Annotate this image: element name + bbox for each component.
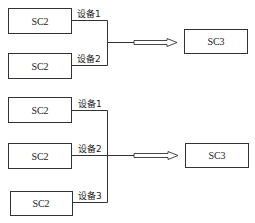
- source-box-1-label: SC2: [31, 16, 48, 27]
- source-box-1-label: SC2: [31, 105, 48, 116]
- link-label-3: 设备3: [78, 190, 102, 201]
- link-label-1: 设备1: [77, 8, 101, 19]
- link-label-1: 设备1: [78, 98, 102, 109]
- bus-connector: [72, 111, 108, 203]
- source-box-3-label: SC2: [32, 198, 49, 209]
- group-1: SC2 SC2 设备1 设备2 SC3: [9, 8, 248, 79]
- group-2: SC2 SC2 SC2 设备1 设备2 设备3 SC3: [9, 98, 249, 216]
- source-box-2-label: SC2: [31, 61, 48, 72]
- hollow-arrow-icon: [134, 152, 178, 160]
- target-box-label: SC3: [208, 150, 225, 161]
- target-box-label: SC3: [207, 36, 224, 47]
- source-box-2-label: SC2: [31, 151, 48, 162]
- hollow-arrow-icon: [134, 39, 177, 47]
- link-label-2: 设备2: [77, 53, 101, 64]
- diagram: SC2 SC2 设备1 设备2 SC3 SC2 SC2 SC2 设备1 设备2 …: [0, 0, 255, 223]
- link-label-2: 设备2: [78, 143, 102, 154]
